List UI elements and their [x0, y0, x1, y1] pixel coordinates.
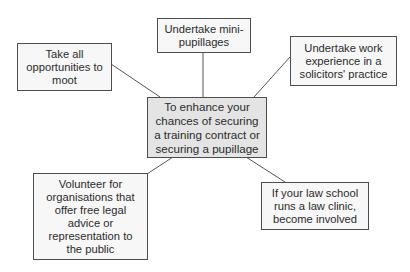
- node-label: If your law school runs a law clinic, be…: [272, 187, 358, 226]
- central-goal-box: To enhance your chances of securing a tr…: [147, 97, 267, 158]
- node-take-all-opportunities-to-moot: Take all opportunities to moot: [17, 43, 112, 91]
- connector-law-clinic: [246, 157, 285, 182]
- connector-volunteer: [147, 157, 173, 174]
- node-label: Take all opportunities to moot: [26, 48, 103, 87]
- node-law-clinic: If your law school runs a law clinic, be…: [261, 182, 369, 230]
- connector-work-experience: [254, 57, 290, 97]
- node-label: Volunteer for organisations that offer f…: [46, 178, 134, 256]
- node-undertake-work-experience: Undertake work experience in a solicitor…: [290, 36, 397, 86]
- node-label: Undertake mini- pupillages: [165, 23, 244, 49]
- central-goal-label: To enhance your chances of securing a tr…: [154, 100, 260, 156]
- spider-diagram: Take all opportunities to moot Undertake…: [0, 0, 410, 272]
- node-volunteer-for-organisations: Volunteer for organisations that offer f…: [33, 173, 148, 260]
- connector-moot: [111, 64, 160, 97]
- node-undertake-mini-pupillages: Undertake mini- pupillages: [157, 18, 251, 53]
- node-label: Undertake work experience in a solicitor…: [300, 42, 388, 81]
